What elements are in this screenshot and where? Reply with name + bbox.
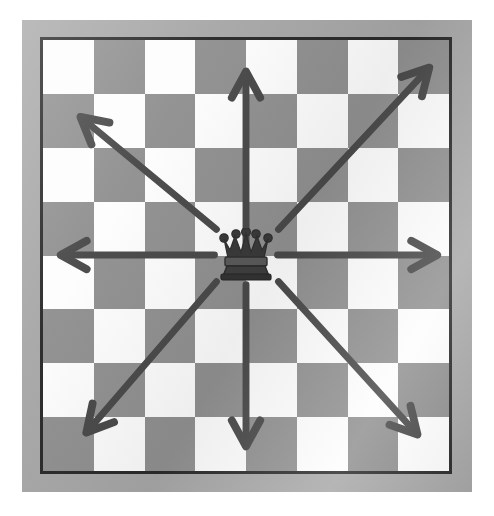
board-square xyxy=(297,417,348,471)
board-square xyxy=(348,363,399,417)
board-square xyxy=(246,363,297,417)
board-square xyxy=(145,417,196,471)
board-square xyxy=(246,148,297,202)
board-square xyxy=(195,417,246,471)
board-square xyxy=(94,309,145,363)
board-square xyxy=(348,202,399,256)
board-square xyxy=(246,309,297,363)
board-square xyxy=(398,309,449,363)
queen-piece xyxy=(216,228,276,284)
board-square xyxy=(195,40,246,94)
board-square xyxy=(94,202,145,256)
board-square xyxy=(94,40,145,94)
board-square xyxy=(145,40,196,94)
board-square xyxy=(43,40,94,94)
board-square xyxy=(43,309,94,363)
board-square xyxy=(94,417,145,471)
board-square xyxy=(43,148,94,202)
board-square xyxy=(94,94,145,148)
board-square xyxy=(145,202,196,256)
board-square xyxy=(398,94,449,148)
board-square xyxy=(348,417,399,471)
board-square xyxy=(195,363,246,417)
board-square xyxy=(145,363,196,417)
board-square xyxy=(246,94,297,148)
board-square xyxy=(43,94,94,148)
board-square xyxy=(297,363,348,417)
board-square xyxy=(195,148,246,202)
board-square xyxy=(145,256,196,310)
board-square xyxy=(297,40,348,94)
board-square xyxy=(398,363,449,417)
board-square xyxy=(348,256,399,310)
board-square xyxy=(94,256,145,310)
board-square xyxy=(94,148,145,202)
board-square xyxy=(195,309,246,363)
board-square xyxy=(398,40,449,94)
board-square xyxy=(297,202,348,256)
board-square xyxy=(398,202,449,256)
board-square xyxy=(348,309,399,363)
board-square xyxy=(398,148,449,202)
board-square xyxy=(246,417,297,471)
board-square xyxy=(297,148,348,202)
board-square xyxy=(246,40,297,94)
board-square xyxy=(145,148,196,202)
board-square xyxy=(348,94,399,148)
board-square xyxy=(145,94,196,148)
board-square xyxy=(195,94,246,148)
board-square xyxy=(297,256,348,310)
board-square xyxy=(43,363,94,417)
board-square xyxy=(348,148,399,202)
board-square xyxy=(94,363,145,417)
queen-moves-diagram xyxy=(0,0,494,516)
board-square xyxy=(145,309,196,363)
board-square xyxy=(43,417,94,471)
board-square xyxy=(398,256,449,310)
board-playing-surface xyxy=(40,37,452,474)
board-square xyxy=(297,309,348,363)
board-square xyxy=(297,94,348,148)
board-square xyxy=(348,40,399,94)
board-square xyxy=(43,202,94,256)
board-square xyxy=(43,256,94,310)
board-square xyxy=(398,417,449,471)
board-outer-frame xyxy=(22,20,472,492)
